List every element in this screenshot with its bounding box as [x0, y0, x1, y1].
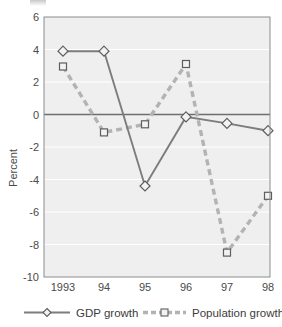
diamond-icon — [43, 309, 51, 317]
x-axis-tick-labels: 1993 94 95 96 97 98 — [51, 281, 274, 293]
y-tick-label: -6 — [29, 206, 39, 218]
y-tick-label: -8 — [29, 239, 39, 251]
chart-legend: GDP growth Population growth — [24, 307, 282, 319]
x-tick-label: 98 — [262, 281, 274, 293]
y-axis-tick-labels: 6 4 2 0 -2 -4 -6 -8 -10 — [23, 11, 39, 283]
y-tick-label: -2 — [29, 141, 39, 153]
x-tick-label: 94 — [98, 281, 110, 293]
y-tick-label: 4 — [33, 44, 39, 56]
y-axis-title: Percent — [7, 149, 19, 187]
legend-item-gdp-growth[interactable]: GDP growth — [24, 307, 138, 319]
legend-label-population-growth: Population growth — [192, 307, 282, 319]
clipped-title-artifact — [30, 0, 46, 6]
legend-item-population-growth[interactable]: Population growth — [143, 307, 282, 319]
y-tick-label: -4 — [29, 174, 39, 186]
square-icon — [161, 309, 168, 316]
legend-label-gdp-growth: GDP growth — [76, 307, 138, 319]
line-chart: 6 4 2 0 -2 -4 -6 -8 -10 Percent — [0, 0, 282, 327]
y-tick-label: -10 — [23, 271, 39, 283]
x-tick-label: 1993 — [51, 281, 75, 293]
x-tick-label: 95 — [139, 281, 151, 293]
chart-container: 6 4 2 0 -2 -4 -6 -8 -10 Percent — [0, 0, 282, 327]
y-tick-label: 0 — [33, 109, 39, 121]
x-tick-label: 96 — [180, 281, 192, 293]
y-tick-label: 6 — [33, 11, 39, 23]
x-tick-label: 97 — [221, 281, 233, 293]
y-tick-label: 2 — [33, 76, 39, 88]
